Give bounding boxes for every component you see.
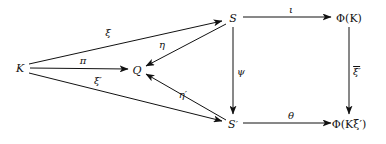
edge-pi-line — [30, 68, 128, 69]
commutative-diagram: K Q S S′ Φ(K) Φ(Kξ′) ξ π ξ′ η η′ ι ψ θ ξ… — [0, 0, 386, 144]
node-S: S — [229, 13, 237, 24]
edge-label-eta-prime: η′ — [179, 90, 187, 100]
node-Q: Q — [132, 65, 141, 76]
edge-label-xi-bar-prime: ξ′ — [353, 67, 361, 77]
edge-label-psi: ψ — [237, 67, 245, 77]
node-S-prime: S′ — [228, 119, 238, 130]
node-K: K — [16, 63, 24, 74]
node-S-prime-mark: ′ — [236, 119, 238, 130]
node-Phi-K: Φ(K) — [336, 13, 362, 24]
edge-xi-line — [29, 21, 222, 64]
diagram-canvas — [0, 0, 386, 144]
edge-label-theta: θ — [288, 111, 294, 121]
edge-label-xi: ξ — [105, 28, 111, 38]
edge-label-pi: π — [80, 56, 87, 66]
edge-label-xi-bar-prime-text: ξ′ — [353, 67, 361, 77]
node-S-prime-label: S — [228, 118, 236, 131]
edge-label-iota: ι — [289, 5, 293, 15]
edge-xi-prime-line — [29, 73, 222, 121]
node-Phi-K-xi-prime: Φ(Kξ′) — [332, 119, 366, 130]
edge-eta-line — [146, 24, 226, 66]
edge-label-eta: η — [159, 40, 165, 50]
edge-label-xi-prime: ξ′ — [94, 76, 102, 86]
